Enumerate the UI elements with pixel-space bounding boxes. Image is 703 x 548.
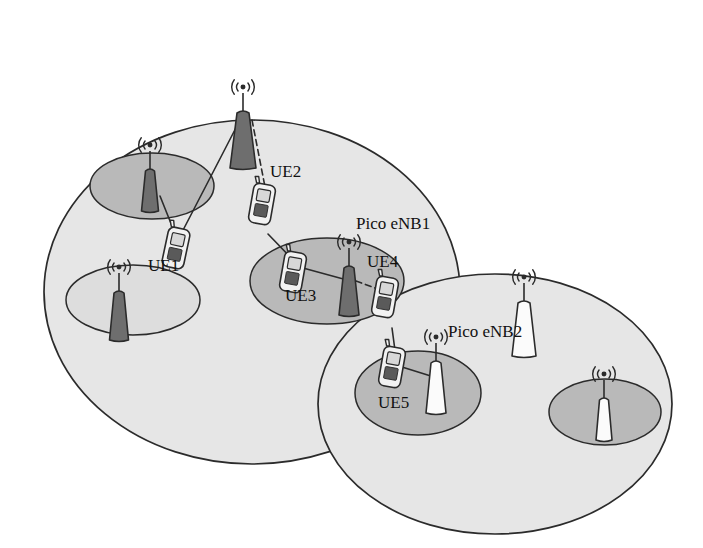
ue-keypad — [383, 366, 398, 380]
figure-canvas: UE2Pico eNB1UE1UE4UE3Pico eNB2UE5 — [0, 0, 703, 548]
ue-screen — [256, 189, 271, 203]
label-ue5: UE5 — [378, 394, 409, 411]
ue-keypad — [284, 271, 299, 285]
ue-keypad — [376, 296, 391, 310]
pico-cell-area — [355, 351, 481, 435]
ue-keypad — [253, 203, 268, 217]
ue-screen — [287, 257, 302, 271]
pico-cell-area — [66, 265, 200, 335]
ue-screen — [170, 232, 185, 246]
label-ue4: UE4 — [367, 253, 398, 270]
label-ue3: UE3 — [285, 287, 316, 304]
label-ue1: UE1 — [148, 257, 179, 274]
label-ue2: UE2 — [270, 163, 301, 180]
radio-waves-icon — [232, 80, 255, 94]
label-pico_enb1: Pico eNB1 — [356, 215, 430, 232]
network-topology-svg — [0, 0, 703, 548]
tower-body — [596, 398, 612, 442]
ue-screen — [379, 282, 394, 296]
ue-screen — [386, 352, 401, 366]
label-pico_enb2: Pico eNB2 — [448, 323, 522, 340]
